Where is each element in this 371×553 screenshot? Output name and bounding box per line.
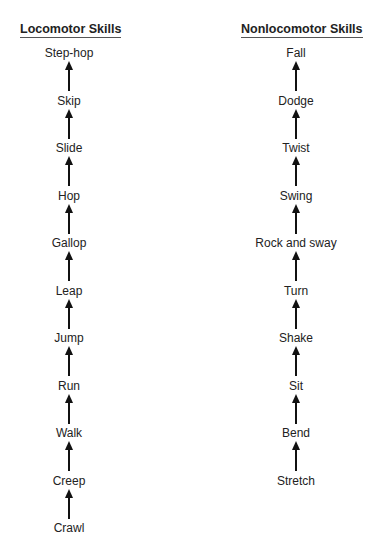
up-arrow-icon [291,299,301,331]
up-arrow-icon [64,156,74,188]
skill-item: Rock and sway [255,235,336,251]
skill-item: Run [58,378,80,394]
locomotor-header: Locomotor Skills [20,22,121,38]
locomotor-skill-list: Step-hopSkipSlideHopGallopLeapJumpRunWal… [0,45,139,536]
up-arrow-icon [64,489,74,521]
skill-item: Creep [53,473,86,489]
skill-item: Hop [58,188,80,204]
up-arrow-icon [64,441,74,473]
nonlocomotor-header: Nonlocomotor Skills [241,22,363,38]
up-arrow-icon [64,204,74,236]
skill-item: Twist [282,140,309,156]
skill-item: Leap [56,283,83,299]
skill-item: Swing [280,188,313,204]
skill-item: Shake [279,330,313,346]
skill-item: Skip [57,93,80,109]
skill-item: Bend [282,425,310,441]
skill-item: Step-hop [45,45,94,61]
up-arrow-icon [291,346,301,378]
up-arrow-icon [64,299,74,331]
skill-item: Sit [289,378,303,394]
skill-item: Dodge [278,93,313,109]
up-arrow-icon [291,251,301,283]
skill-item: Stretch [277,473,315,489]
up-arrow-icon [64,109,74,141]
up-arrow-icon [291,61,301,93]
up-arrow-icon [64,251,74,283]
nonlocomotor-skill-list: FallDodgeTwistSwingRock and swayTurnShak… [226,45,366,489]
skill-item: Gallop [52,235,87,251]
up-arrow-icon [64,346,74,378]
skill-item: Jump [54,330,83,346]
up-arrow-icon [291,204,301,236]
skill-item: Fall [286,45,305,61]
skill-item: Turn [284,283,308,299]
skill-item: Crawl [54,520,85,536]
up-arrow-icon [64,61,74,93]
up-arrow-icon [291,109,301,141]
up-arrow-icon [291,156,301,188]
up-arrow-icon [291,394,301,426]
skill-item: Walk [56,425,82,441]
up-arrow-icon [291,441,301,473]
up-arrow-icon [64,394,74,426]
skill-item: Slide [56,140,83,156]
